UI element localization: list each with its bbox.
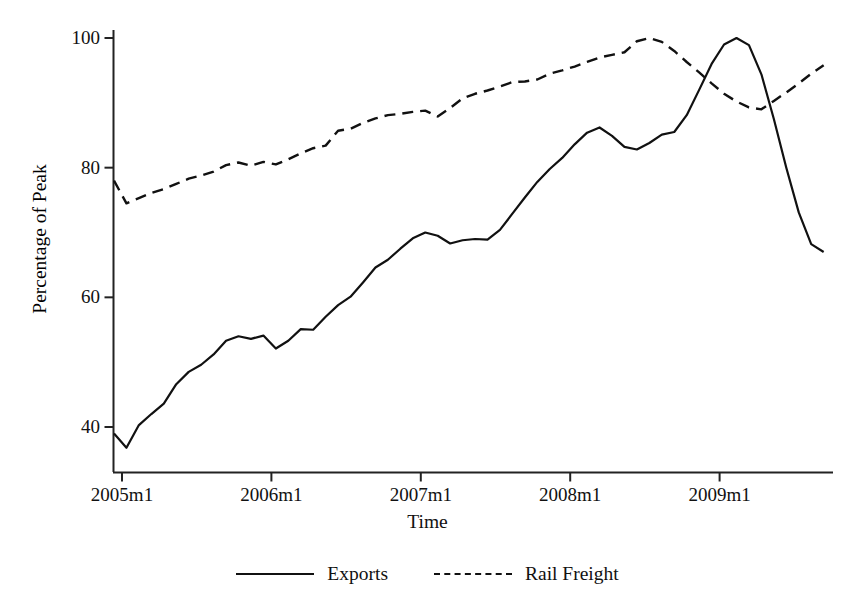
legend-item-exports[interactable]: Exports bbox=[236, 563, 388, 585]
y-axis-title-text: Percentage of Peak bbox=[29, 139, 51, 339]
x-tick-label: 2009m1 bbox=[650, 485, 790, 504]
legend-key-solid-line-icon bbox=[236, 573, 314, 575]
series-line-rail-freight bbox=[114, 38, 824, 203]
y-axis-title: Percentage of Peak bbox=[0, 0, 52, 470]
chart-figure: 406080100 2005m12006m12007m12008m12009m1… bbox=[0, 0, 855, 609]
legend-label: Rail Freight bbox=[525, 563, 619, 585]
x-tick-label: 2006m1 bbox=[201, 485, 341, 504]
x-tick-label: 2007m1 bbox=[351, 485, 491, 504]
x-tick-label: 2008m1 bbox=[500, 485, 640, 504]
x-tick-label: 2005m1 bbox=[52, 485, 192, 504]
y-axis-ticks bbox=[105, 38, 114, 427]
x-axis-title-text: Time bbox=[0, 511, 855, 533]
data-series-layer bbox=[114, 38, 824, 448]
legend-item-rail-freight[interactable]: Rail Freight bbox=[434, 563, 619, 585]
x-axis-ticks bbox=[122, 473, 720, 482]
chart-legend: ExportsRail Freight bbox=[0, 563, 855, 585]
legend-label: Exports bbox=[327, 563, 388, 585]
axis-lines bbox=[113, 30, 833, 473]
series-line-exports bbox=[114, 38, 824, 448]
legend-key-dashed-line-icon bbox=[434, 573, 512, 575]
